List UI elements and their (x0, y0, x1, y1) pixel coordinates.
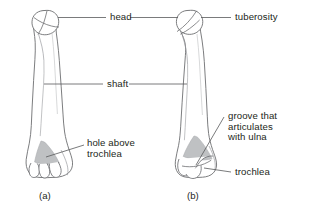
label-groove-articulates-ulna: groove that articulates with ulna (228, 111, 277, 143)
label-tuberosity: tuberosity (235, 12, 278, 23)
humerus-a-condyle-1 (29, 163, 39, 177)
label-groove-line3: with ulna (228, 132, 277, 143)
label-groove-line1: groove that (228, 111, 277, 122)
humerus-a-condyle-2 (39, 163, 50, 178)
caption-panel-a: (a) (39, 190, 51, 201)
label-shaft: shaft (107, 79, 128, 90)
label-hole-above-trochlea: hole above trochlea (87, 138, 135, 159)
caption-panel-b: (b) (187, 190, 199, 201)
label-head: head (110, 12, 132, 23)
label-hole-above-trochlea-line2: trochlea (87, 149, 135, 160)
label-trochlea: trochlea (235, 167, 270, 178)
humerus-a-head-sphere (32, 10, 59, 34)
label-hole-above-trochlea-line1: hole above (87, 138, 135, 149)
humerus-b-head-sphere (176, 10, 202, 34)
